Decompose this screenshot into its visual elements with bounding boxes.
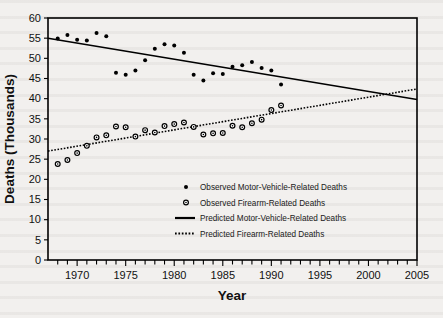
data-point-firearm-core <box>261 119 263 121</box>
data-point-firearm-core <box>241 127 243 129</box>
data-point-motor-vehicle <box>250 60 254 64</box>
data-point-motor-vehicle <box>114 71 118 75</box>
data-point-firearm-core <box>280 105 282 107</box>
data-point-firearm-core <box>135 136 137 138</box>
data-point-firearm-core <box>193 126 195 128</box>
data-point-firearm-core <box>125 127 127 129</box>
x-axis: 19701975198019851990199520002005 <box>58 260 430 281</box>
data-point-motor-vehicle <box>124 73 128 77</box>
y-axis-tick-label: 0 <box>35 254 41 266</box>
legend-label: Predicted Motor-Vehicle-Related Deaths <box>200 214 346 223</box>
legend-marker-filled-circle <box>184 185 188 189</box>
data-point-motor-vehicle <box>143 58 147 62</box>
data-point-motor-vehicle <box>75 38 79 42</box>
data-point-firearm-core <box>251 122 253 124</box>
y-axis-tick-label: 15 <box>29 193 41 205</box>
legend-label: Predicted Firearm-Related Deaths <box>200 230 324 239</box>
data-point-motor-vehicle <box>240 63 244 67</box>
data-point-motor-vehicle <box>85 39 89 43</box>
data-point-motor-vehicle <box>221 72 225 76</box>
y-axis-tick-label: 40 <box>29 92 41 104</box>
data-point-firearm-core <box>86 145 88 147</box>
data-point-firearm-core <box>212 133 214 135</box>
x-axis-tick-label: 1990 <box>259 269 283 281</box>
trend-line-predicted-firearm <box>48 89 417 151</box>
y-axis-tick-label: 50 <box>29 52 41 64</box>
data-point-firearm-core <box>232 125 234 127</box>
data-point-motor-vehicle <box>231 65 235 69</box>
data-point-firearm-core <box>164 125 166 127</box>
y-axis-tick-label: 20 <box>29 173 41 185</box>
y-axis-tick-label: 35 <box>29 113 41 125</box>
data-point-firearm-core <box>154 132 156 134</box>
data-point-motor-vehicle <box>269 68 273 72</box>
data-point-motor-vehicle <box>133 68 137 72</box>
data-point-firearm-core <box>115 126 117 128</box>
y-axis-tick-label: 45 <box>29 72 41 84</box>
y-axis-tick-label: 25 <box>29 153 41 165</box>
data-point-motor-vehicle <box>56 37 60 41</box>
legend-marker-open-circle-core <box>185 202 187 204</box>
data-point-firearm-core <box>144 129 146 131</box>
chart-plot-area: 051015202530354045505560 197019751980198… <box>0 0 443 318</box>
data-point-firearm-core <box>222 132 224 134</box>
data-point-firearm-core <box>271 109 273 111</box>
legend-label: Observed Motor-Vehicle-Related Deaths <box>200 183 347 192</box>
y-axis-tick-label: 10 <box>29 213 41 225</box>
data-point-motor-vehicle <box>279 83 283 87</box>
data-point-motor-vehicle <box>163 42 167 46</box>
data-point-motor-vehicle <box>211 71 215 75</box>
x-axis-tick-label: 1975 <box>113 269 137 281</box>
series-observed-firearm-points <box>55 103 283 166</box>
data-point-motor-vehicle <box>172 43 176 47</box>
data-point-motor-vehicle <box>65 33 69 37</box>
data-point-motor-vehicle <box>201 79 205 83</box>
data-point-firearm-core <box>173 123 175 125</box>
data-point-motor-vehicle <box>104 34 108 38</box>
data-point-motor-vehicle <box>153 47 157 51</box>
data-point-firearm-core <box>76 152 78 154</box>
x-axis-title: Year <box>218 288 247 303</box>
y-axis-tick-label: 5 <box>35 234 41 246</box>
x-axis-tick-label: 1980 <box>162 269 186 281</box>
data-point-firearm-core <box>203 134 205 136</box>
data-point-firearm-core <box>57 163 59 165</box>
y-axis-tick-label: 55 <box>29 32 41 44</box>
y-axis: 051015202530354045505560 <box>29 12 48 266</box>
data-point-motor-vehicle <box>182 51 186 55</box>
data-point-firearm-core <box>96 137 98 139</box>
data-point-firearm-core <box>183 122 185 124</box>
plot-frame <box>48 18 417 260</box>
x-axis-tick-label: 1995 <box>308 269 332 281</box>
trend-lines-group <box>48 38 417 151</box>
x-axis-tick-label: 2005 <box>405 269 429 281</box>
chart-legend: Observed Motor-Vehicle-Related DeathsObs… <box>175 183 347 239</box>
y-axis-tick-label: 60 <box>29 12 41 24</box>
x-axis-tick-label: 1985 <box>211 269 235 281</box>
y-axis-tick-label: 30 <box>29 133 41 145</box>
trend-line-predicted-motor-vehicle <box>48 38 417 99</box>
chart-figure: 051015202530354045505560 197019751980198… <box>0 0 443 318</box>
data-point-motor-vehicle <box>192 73 196 77</box>
data-point-firearm-core <box>105 135 107 137</box>
legend-label: Observed Firearm-Related Deaths <box>200 199 325 208</box>
data-point-motor-vehicle <box>95 31 99 35</box>
data-point-firearm-core <box>67 159 69 161</box>
x-axis-tick-label: 2000 <box>356 269 380 281</box>
x-axis-tick-label: 1970 <box>65 269 89 281</box>
y-axis-title: Deaths (Thousands) <box>2 74 17 204</box>
data-point-motor-vehicle <box>260 66 264 70</box>
